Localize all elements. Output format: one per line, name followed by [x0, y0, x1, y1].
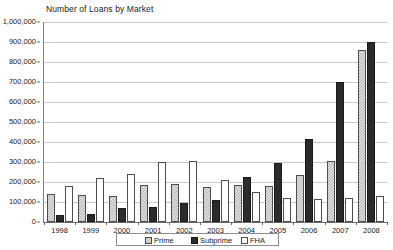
swatch-subprime-icon [191, 237, 198, 244]
x-tick-mark [262, 222, 263, 225]
bar-subprime-1999 [87, 214, 95, 222]
bar-prime-2005 [265, 186, 273, 222]
bar-fha-2006 [314, 199, 322, 222]
chart-legend: PrimeSubprimeFHA [116, 233, 279, 246]
y-tick-mark [37, 102, 40, 103]
bar-subprime-2004 [243, 177, 251, 222]
bar-subprime-2003 [212, 200, 220, 222]
y-tick-label: 1,000,000 [3, 18, 36, 26]
bar-subprime-2000 [118, 208, 126, 222]
legend-item-fha[interactable]: FHA [241, 235, 265, 246]
y-tick-mark [37, 162, 40, 163]
x-tick-label-1998: 1998 [51, 226, 68, 235]
bar-group-2001 [140, 22, 166, 222]
bar-fha-2005 [283, 198, 291, 222]
bar-fha-2008 [376, 196, 384, 222]
x-tick-mark [106, 222, 107, 225]
bar-prime-2004 [234, 185, 242, 222]
bar-subprime-2005 [274, 163, 282, 222]
y-tick-label: 700,000 [9, 78, 36, 86]
y-tick-mark [37, 142, 40, 143]
bar-group-2006 [296, 22, 322, 222]
bar-prime-2008 [358, 50, 366, 222]
bar-fha-2002 [189, 161, 197, 222]
bar-fha-2004 [252, 192, 260, 222]
x-tick-mark [75, 222, 76, 225]
legend-item-subprime[interactable]: Subprime [191, 235, 232, 246]
bars-layer [44, 22, 387, 222]
y-axis: 0100,000200,000300,000400,000500,000600,… [0, 22, 40, 222]
legend-label-subprime: Subprime [200, 236, 232, 245]
bar-group-2007 [327, 22, 353, 222]
x-tick-label-1999: 1999 [82, 226, 99, 235]
bar-group-2000 [109, 22, 135, 222]
bar-prime-2003 [203, 187, 211, 222]
x-tick-mark [138, 222, 139, 225]
bar-prime-2006 [296, 175, 304, 222]
bar-prime-2007 [327, 161, 335, 222]
y-tick-label: 100,000 [9, 198, 36, 206]
y-tick-label: 200,000 [9, 178, 36, 186]
legend-label-prime: Prime [154, 236, 174, 245]
legend-label-fha: FHA [250, 236, 265, 245]
y-tick-label: 800,000 [9, 58, 36, 66]
bar-prime-2002 [171, 184, 179, 222]
bar-subprime-1998 [56, 215, 64, 222]
y-tick-label: 600,000 [9, 98, 36, 106]
bar-fha-2000 [127, 174, 135, 222]
bar-fha-1999 [96, 178, 104, 222]
y-tick-mark [37, 42, 40, 43]
x-tick-mark [293, 222, 294, 225]
x-tick-mark [44, 222, 45, 225]
loans-by-market-chart: Number of Loans by Market 0100,000200,00… [0, 0, 393, 250]
bar-subprime-2006 [305, 139, 313, 222]
y-tick-label: 0 [32, 218, 36, 226]
x-tick-label-2007: 2007 [332, 226, 349, 235]
bar-fha-1998 [65, 186, 73, 222]
bar-subprime-2007 [336, 82, 344, 222]
y-tick-label: 400,000 [9, 138, 36, 146]
bar-fha-2003 [221, 180, 229, 222]
x-tick-mark [387, 222, 388, 225]
bar-group-1999 [78, 22, 104, 222]
bar-prime-2000 [109, 196, 117, 222]
bar-prime-1999 [78, 195, 86, 222]
x-tick-label-2008: 2008 [363, 226, 380, 235]
x-tick-mark [231, 222, 232, 225]
bar-group-1998 [47, 22, 73, 222]
x-tick-mark [200, 222, 201, 225]
x-tick-label-2006: 2006 [301, 226, 318, 235]
y-tick-mark [37, 22, 40, 23]
y-tick-mark [37, 62, 40, 63]
bar-subprime-2008 [367, 42, 375, 222]
y-tick-mark [37, 222, 40, 223]
swatch-prime-icon [145, 237, 152, 244]
y-tick-mark [37, 202, 40, 203]
bar-subprime-2001 [149, 207, 157, 222]
legend-item-prime[interactable]: Prime [145, 235, 174, 246]
y-tick-mark [37, 82, 40, 83]
x-tick-mark [169, 222, 170, 225]
y-tick-label: 300,000 [9, 158, 36, 166]
bar-group-2003 [203, 22, 229, 222]
chart-title: Number of Loans by Market [46, 4, 153, 15]
swatch-fha-icon [241, 237, 248, 244]
bar-group-2002 [171, 22, 197, 222]
bar-fha-2007 [345, 198, 353, 222]
x-tick-mark [325, 222, 326, 225]
bar-prime-2001 [140, 185, 148, 222]
y-tick-label: 900,000 [9, 38, 36, 46]
y-tick-label: 500,000 [9, 118, 36, 126]
y-tick-mark [37, 182, 40, 183]
bar-prime-1998 [47, 194, 55, 222]
bar-fha-2001 [158, 162, 166, 222]
bar-subprime-2002 [180, 203, 188, 222]
x-tick-mark [356, 222, 357, 225]
bar-group-2005 [265, 22, 291, 222]
bar-group-2008 [358, 22, 384, 222]
y-tick-mark [37, 122, 40, 123]
bar-group-2004 [234, 22, 260, 222]
